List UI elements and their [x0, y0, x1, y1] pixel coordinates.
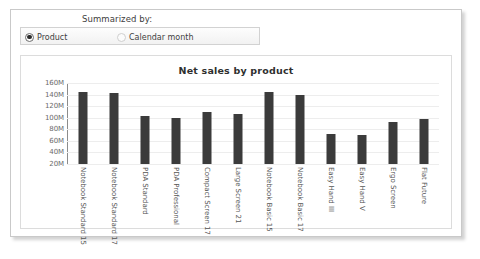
x-axis-tick-label: Notebook Basic 17: [296, 167, 304, 232]
x-axis-tick-label: Easy Hand III: [327, 167, 335, 212]
x-axis-tick-label: Easy Hand V: [358, 167, 366, 211]
summarize-by-radio-group: Product Calendar month: [20, 27, 260, 45]
chart-title: Net sales by product: [21, 65, 451, 76]
x-axis-tick-label: Notebook Standard 15: [79, 167, 87, 245]
bar-slot: [408, 83, 439, 164]
x-axis-label-slot: PDA Standard: [129, 166, 160, 228]
y-axis-tick-label: 120M: [45, 102, 64, 110]
x-axis-label-slot: Large Screen 21: [222, 166, 253, 228]
bar-slot: [222, 83, 253, 164]
bar[interactable]: [419, 119, 428, 164]
plot-area: 160M140M120M100M80M60M40M20M: [67, 83, 439, 164]
chart-panel: Net sales by product 160M140M120M100M80M…: [20, 55, 452, 229]
x-axis-labels: Notebook Standard 15Notebook Standard 17…: [67, 166, 439, 228]
gridline: [67, 164, 439, 165]
summarize-by-caption: Summarized by:: [82, 14, 152, 24]
bar-slot: [160, 83, 191, 164]
summarize-by-panel: Summarized by: Product Calendar month: [20, 14, 260, 51]
x-axis-tick-label: Compact Screen 17: [203, 167, 211, 235]
bar[interactable]: [202, 112, 211, 164]
bar-slot: [284, 83, 315, 164]
radio-unselected-icon[interactable]: [117, 33, 126, 42]
bar[interactable]: [295, 95, 304, 164]
x-axis-tick-label: Flat Future: [420, 167, 428, 204]
bar-slot: [315, 83, 346, 164]
radio-option-product-label: Product: [37, 33, 67, 42]
radio-selected-icon[interactable]: [25, 33, 34, 42]
y-axis-tick-label: 20M: [49, 160, 64, 168]
bar-slot: [129, 83, 160, 164]
y-axis-tick-label: 80M: [49, 125, 64, 133]
y-axis-tick-label: 100M: [45, 114, 64, 122]
bar-slot: [67, 83, 98, 164]
x-axis-label-slot: Easy Hand III: [315, 166, 346, 228]
y-axis-tick-label: 40M: [49, 148, 64, 156]
bar-slot: [98, 83, 129, 164]
x-axis-label-slot: Notebook Standard 15: [67, 166, 98, 228]
bar[interactable]: [171, 118, 180, 164]
x-axis-label-slot: Notebook Basic 15: [253, 166, 284, 228]
bar-slot: [346, 83, 377, 164]
x-axis-tick-label: PDA Standard: [141, 167, 149, 215]
bar[interactable]: [78, 92, 87, 164]
x-axis-label-slot: Notebook Basic 17: [284, 166, 315, 228]
radio-option-product[interactable]: Product: [25, 30, 67, 44]
bar[interactable]: [264, 92, 273, 164]
x-axis-tick-label: Notebook Standard 17: [110, 167, 118, 245]
x-axis-tick-label: Large Screen 21: [234, 167, 242, 223]
bar[interactable]: [326, 134, 335, 164]
app-window: Summarized by: Product Calendar month Ne…: [10, 9, 462, 237]
x-axis-label-slot: Notebook Standard 17: [98, 166, 129, 228]
x-axis-label-slot: Ergo Screen: [377, 166, 408, 228]
bar[interactable]: [357, 135, 366, 164]
x-axis-tick-label: Ergo Screen: [389, 167, 397, 209]
bar[interactable]: [140, 116, 149, 164]
x-axis-label-slot: Compact Screen 17: [191, 166, 222, 228]
x-axis-tick-label: Notebook Basic 15: [265, 167, 273, 232]
x-axis-label-slot: PDA Professional: [160, 166, 191, 228]
y-axis-tick-label: 160M: [45, 79, 64, 87]
radio-option-calendar-month-label: Calendar month: [129, 33, 193, 42]
y-axis-tick-label: 60M: [49, 137, 64, 145]
bar-slot: [377, 83, 408, 164]
x-axis-tick-label: PDA Professional: [172, 167, 180, 225]
bar[interactable]: [233, 114, 242, 164]
x-axis-label-slot: Flat Future: [408, 166, 439, 228]
y-axis-tick-label: 140M: [45, 91, 64, 99]
radio-option-calendar-month[interactable]: Calendar month: [117, 30, 193, 44]
x-axis-label-slot: Easy Hand V: [346, 166, 377, 228]
bar[interactable]: [109, 93, 118, 164]
bar-slot: [191, 83, 222, 164]
bar-slot: [253, 83, 284, 164]
bar[interactable]: [388, 122, 397, 164]
